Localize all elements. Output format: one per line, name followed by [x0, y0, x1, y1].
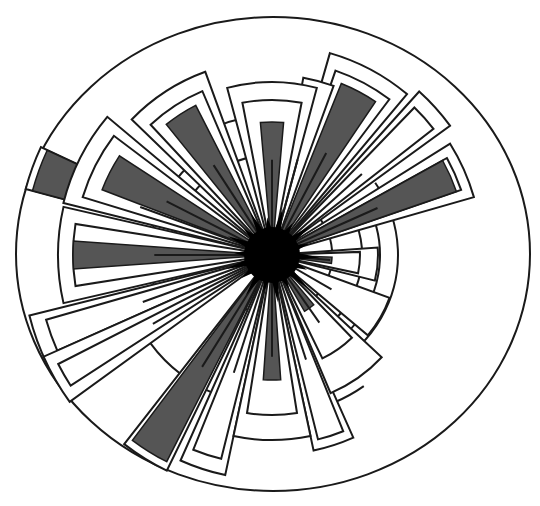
core-disc — [244, 227, 300, 283]
radial-rose-diagram — [0, 0, 540, 506]
